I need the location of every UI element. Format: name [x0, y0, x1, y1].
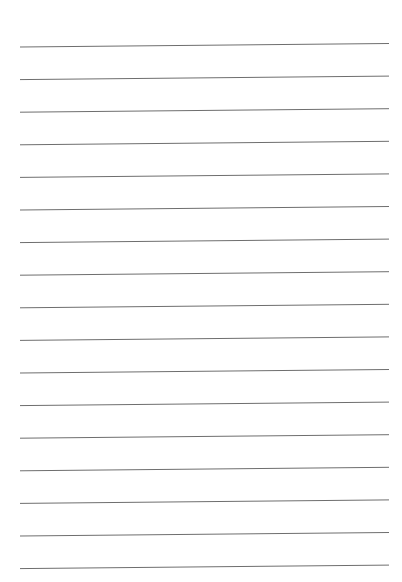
ruled-line [20, 304, 389, 308]
ruled-lines [0, 0, 402, 582]
ruled-line [20, 337, 389, 341]
ruled-line [20, 109, 389, 113]
ruled-line [20, 272, 389, 276]
ruled-line [20, 500, 389, 504]
ruled-line [20, 565, 389, 569]
ruled-line [20, 467, 389, 471]
ruled-line [20, 370, 389, 374]
lined-paper-page [0, 0, 402, 582]
ruled-line [20, 207, 389, 211]
ruled-line [20, 44, 389, 48]
ruled-line [20, 533, 389, 537]
ruled-line [20, 402, 389, 406]
ruled-line [20, 435, 389, 439]
ruled-line [20, 174, 389, 178]
ruled-line [20, 141, 389, 145]
ruled-line [20, 239, 389, 243]
ruled-line [20, 76, 389, 80]
